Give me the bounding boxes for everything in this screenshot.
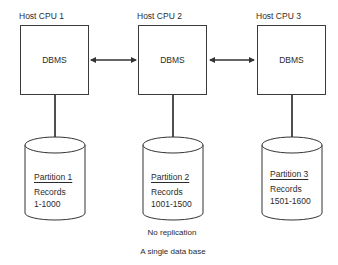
partition-records-label-1: Records [34,186,72,198]
host-box-1: DBMS [20,25,89,95]
replication-caption: No replication [0,228,338,237]
partition-title-3: Partition 3 [270,168,311,180]
host-box-2: DBMS [138,25,207,95]
partition-records-label-2: Records [151,186,192,198]
partition-3: Partition 3 Records 1501-1600 [270,168,311,207]
dbms-label-1: DBMS [21,55,88,65]
partition-title-2: Partition 2 [151,171,192,183]
host-label-1: Host CPU 1 [19,11,64,21]
host-label-3: Host CPU 3 [256,11,301,21]
partition-title-1: Partition 1 [34,171,72,183]
host-label-2: Host CPU 2 [137,11,182,21]
database-caption: A single data base [0,247,338,256]
partition-2: Partition 2 Records 1001-1500 [151,171,192,210]
distributed-database-diagram: Host CPU 1 DBMS Host CPU 2 DBMS Host CPU… [0,0,338,265]
partition-range-1: 1-1000 [34,198,72,210]
dbms-label-3: DBMS [258,55,325,65]
partition-range-3: 1501-1600 [270,195,311,207]
partition-range-2: 1001-1500 [151,198,192,210]
host-box-3: DBMS [257,25,326,95]
partition-records-label-3: Records [270,183,311,195]
dbms-label-2: DBMS [139,55,206,65]
partition-1: Partition 1 Records 1-1000 [34,171,72,210]
